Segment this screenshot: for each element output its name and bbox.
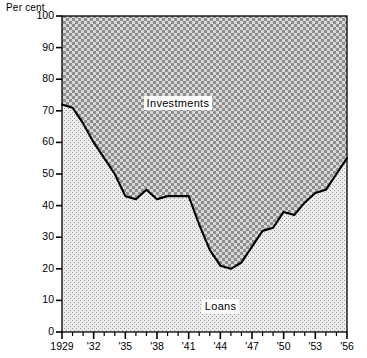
y-tick-label: 30 (20, 230, 54, 242)
chart-figure (0, 0, 367, 358)
y-tick-label: 20 (20, 262, 54, 274)
annotation-loans: Loans (202, 299, 239, 313)
x-axis-ticks (62, 332, 347, 339)
y-tick-label: 40 (20, 199, 54, 211)
y-tick-label: 70 (20, 104, 54, 116)
y-tick-label: 10 (20, 293, 54, 305)
y-tick-label: 90 (20, 41, 54, 53)
x-tick-label: '56 (327, 340, 367, 352)
y-tick-label: 0 (20, 325, 54, 337)
y-tick-label: 100 (20, 9, 54, 21)
y-tick-label: 60 (20, 135, 54, 147)
annotation-investments: Investments (144, 96, 213, 110)
y-tick-label: 80 (20, 72, 54, 84)
y-axis-ticks (56, 16, 62, 332)
y-tick-label: 50 (20, 167, 54, 179)
plot-area (62, 16, 347, 332)
